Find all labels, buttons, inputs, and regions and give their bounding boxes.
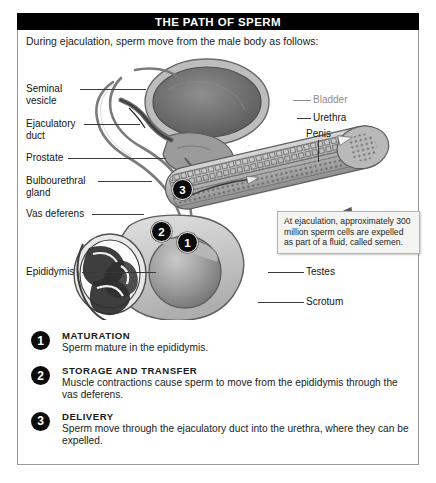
- label-bulbourethral-gland: Bulbourethral gland: [26, 175, 85, 198]
- label-scrotum: Scrotum: [306, 296, 343, 308]
- label-epididymis: Epididymis: [26, 266, 74, 278]
- vas-deferens-highlight: [100, 83, 132, 157]
- leader-epididymis: [82, 272, 156, 273]
- list-item: 3 DELIVERY Sperm move through the ejacul…: [31, 411, 409, 448]
- step-body: Muscle contractions cause sperm to move …: [62, 377, 409, 402]
- bladder-illustration: [145, 59, 269, 145]
- step-number: 3: [31, 412, 50, 431]
- leader-penis: [318, 140, 319, 162]
- label-seminal-vesicle: Seminal vesicle: [26, 83, 62, 106]
- leader-seminal-vesicle: [80, 89, 146, 90]
- leader-vas-deferens: [92, 214, 144, 215]
- step-body: Sperm move through the ejaculatory duct …: [62, 423, 409, 448]
- page-title: THE PATH OF SPERM: [155, 16, 281, 28]
- list-item: 1 MATURATION Sperm mature in the epididy…: [31, 330, 409, 356]
- label-urethra: Urethra: [313, 112, 346, 124]
- step-number: 1: [31, 331, 50, 350]
- leader-prostate: [68, 158, 166, 159]
- label-ejaculatory-duct: Ejaculatory duct: [26, 118, 75, 141]
- leader-bladder: [293, 100, 311, 101]
- label-bladder: Bladder: [313, 94, 347, 106]
- figure-title-bar: THE PATH OF SPERM: [17, 13, 419, 30]
- list-item: 2 STORAGE AND TRANSFER Muscle contractio…: [31, 365, 409, 402]
- step-title: MATURATION: [62, 330, 409, 341]
- label-testes: Testes: [306, 266, 335, 278]
- leader-urethra: [297, 118, 311, 119]
- leader-testes: [268, 272, 304, 273]
- step-title: DELIVERY: [62, 411, 409, 422]
- label-prostate: Prostate: [26, 152, 63, 164]
- step-list: 1 MATURATION Sperm mature in the epididy…: [31, 330, 409, 457]
- diagram-badge-1: 1: [177, 232, 198, 253]
- leader-bulbourethral: [98, 181, 152, 182]
- leader-scrotum: [258, 302, 304, 303]
- ejaculation-callout: At ejaculation, approximately 300 millio…: [277, 211, 420, 254]
- diagram-badge-2: 2: [151, 221, 172, 242]
- leader-ejaculatory-duct: [84, 124, 140, 125]
- step-title: STORAGE AND TRANSFER: [62, 365, 409, 376]
- step-number: 2: [31, 366, 50, 385]
- diagram-badge-3: 3: [172, 179, 193, 200]
- step-body: Sperm mature in the epididymis.: [62, 342, 409, 354]
- label-penis: Penis: [306, 128, 331, 140]
- label-vas-deferens: Vas deferens: [26, 208, 84, 220]
